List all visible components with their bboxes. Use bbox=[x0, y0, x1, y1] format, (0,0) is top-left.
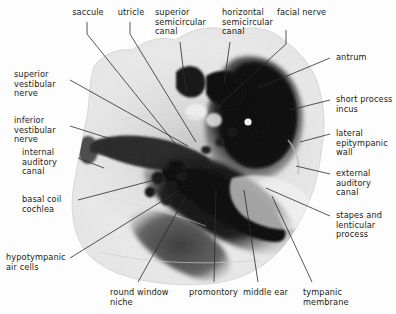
ct-scan-image bbox=[60, 20, 340, 300]
label-utricle: utricle bbox=[107, 8, 155, 18]
label-tympanic-membrane: tympanic membrane bbox=[303, 288, 365, 307]
anatomical-figure: saccule utricle superior semicircular ca… bbox=[0, 0, 396, 314]
label-facial-nerve: facial nerve bbox=[277, 8, 339, 18]
label-hypotympanic-air-cells: hypotympanic air cells bbox=[6, 253, 70, 272]
label-lateral-epitympanic-wall: lateral epitympanic wall bbox=[336, 129, 394, 158]
label-superior-vestibular-nerve: superior vestibular nerve bbox=[14, 70, 72, 99]
label-stapes-and-lenticular-process: stapes and lenticular process bbox=[336, 211, 396, 240]
label-internal-auditory-canal: internal auditory canal bbox=[22, 148, 80, 177]
label-inferior-vestibular-nerve: inferior vestibular nerve bbox=[14, 116, 72, 145]
label-middle-ear: middle ear bbox=[243, 288, 295, 298]
label-round-window-niche: round window niche bbox=[110, 288, 178, 307]
label-promontory: promontory bbox=[189, 288, 245, 298]
label-basal-coil-cochlea: basal coil cochlea bbox=[22, 195, 82, 214]
label-short-process-incus: short process incus bbox=[336, 95, 396, 114]
label-antrum: antrum bbox=[336, 53, 392, 63]
label-external-auditory-canal: external auditory canal bbox=[336, 169, 394, 198]
label-superior-semicircular-canal: superior semicircular canal bbox=[155, 8, 221, 37]
